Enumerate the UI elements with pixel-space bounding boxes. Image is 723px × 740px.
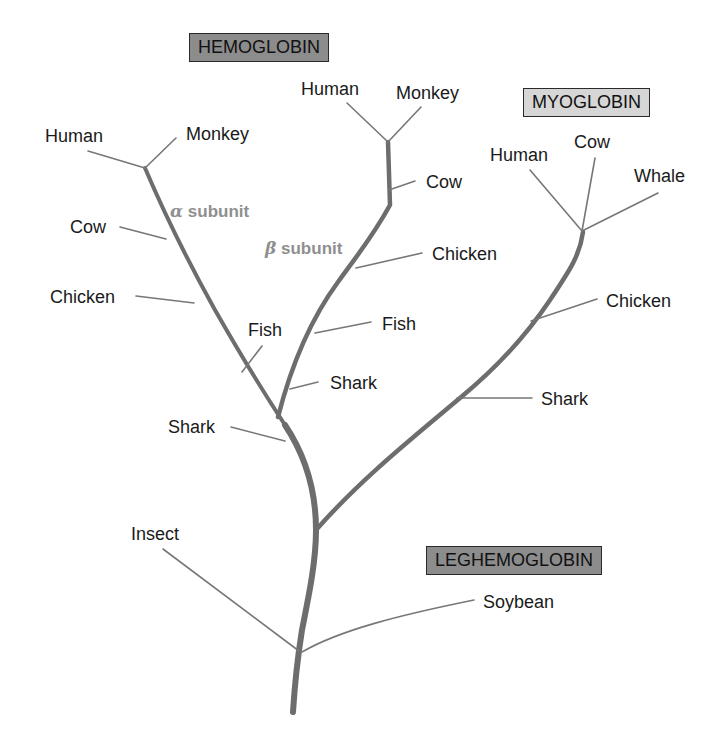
twig-alpha-human — [88, 151, 145, 168]
twig-beta-human — [347, 103, 388, 142]
species-alpha-cow: Cow — [70, 218, 106, 236]
species-myo-cow: Cow — [574, 133, 610, 151]
beta-symbol: β — [265, 238, 276, 258]
species-beta-chicken: Chicken — [432, 245, 497, 263]
family-label-myoglobin: MYOGLOBIN — [523, 88, 650, 117]
beta-subunit-text: subunit — [281, 239, 342, 258]
species-myo-whale: Whale — [634, 167, 685, 185]
beta-subunit-label: β subunit — [265, 240, 342, 257]
family-label-hemoglobin: HEMOGLOBIN — [189, 33, 329, 62]
twig-soybean — [302, 600, 474, 652]
species-alpha-chicken: Chicken — [50, 288, 115, 306]
twig-myo-human — [530, 170, 582, 231]
family-label-leghemoglobin: LEGHEMOGLOBIN — [426, 546, 602, 575]
species-beta-human: Human — [301, 80, 359, 98]
species-myo-chicken: Chicken — [606, 292, 671, 310]
twig-beta-shark — [290, 382, 318, 389]
twig-myo-whale — [582, 193, 658, 231]
species-insect: Insect — [131, 525, 179, 543]
species-alpha-shark: Shark — [168, 418, 215, 436]
twig-alpha-chicken — [136, 296, 194, 303]
species-beta-fish: Fish — [382, 315, 416, 333]
alpha-subunit-label: α subunit — [170, 203, 249, 220]
twig-beta-chicken — [356, 253, 422, 268]
twig-alpha-shark — [231, 427, 285, 441]
alpha-subunit-text: subunit — [188, 202, 249, 221]
species-soybean: Soybean — [483, 593, 554, 611]
twig-beta-cow — [389, 181, 415, 190]
species-alpha-human: Human — [45, 127, 103, 145]
species-beta-shark: Shark — [330, 374, 377, 392]
species-myo-shark: Shark — [541, 390, 588, 408]
twig-beta-monkey — [388, 107, 421, 142]
twig-insect — [163, 549, 299, 651]
twig-alpha-monkey — [145, 138, 176, 168]
species-alpha-fish: Fish — [248, 321, 282, 339]
species-myo-human: Human — [490, 146, 548, 164]
species-alpha-monkey: Monkey — [186, 125, 249, 143]
twig-beta-fish — [315, 322, 371, 333]
species-beta-monkey: Monkey — [396, 84, 459, 102]
species-beta-cow: Cow — [426, 173, 462, 191]
main-trunk — [285, 425, 316, 712]
twig-alpha-cow — [120, 227, 166, 239]
alpha-symbol: α — [170, 201, 183, 221]
twig-myo-cow — [582, 158, 595, 231]
